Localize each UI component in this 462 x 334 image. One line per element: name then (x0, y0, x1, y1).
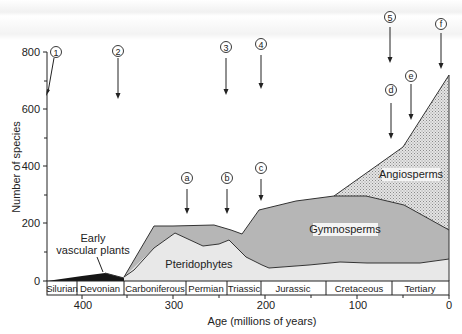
period-triassic: Triassic (228, 283, 261, 294)
y-axis-title: Number of species (10, 121, 22, 213)
x-axis-title: Age (millions of years) (208, 315, 317, 327)
marker-a: a (182, 173, 193, 215)
svg-text:a: a (184, 173, 189, 183)
svg-text:5: 5 (387, 13, 392, 23)
marker-e: e (406, 71, 417, 121)
period-permian: Permian (188, 283, 223, 294)
x-tick-label: 100 (349, 299, 367, 311)
svg-text:1: 1 (53, 48, 58, 58)
x-tick-label: 400 (74, 299, 92, 311)
arrow-down-icon (116, 93, 121, 99)
early-label-leader (97, 257, 103, 272)
y-tick-label: 600 (22, 103, 40, 115)
period-silurian: Silurian (46, 283, 78, 294)
svg-text:2: 2 (115, 47, 120, 57)
period-tertiary: Tertiary (404, 283, 435, 294)
label-pteridophytes: Pteridophytes (165, 258, 233, 270)
arrow-down-icon (259, 83, 264, 89)
y-tick-label: 0 (34, 275, 40, 287)
arrow-down-icon (224, 89, 229, 95)
period-carboniferous: Carboniferous (125, 283, 185, 294)
x-tick-label: 200 (257, 299, 275, 311)
marker-c: c (256, 163, 267, 202)
svg-text:3: 3 (223, 43, 228, 53)
arrow-down-icon (389, 133, 394, 139)
label-gymnosperms: Gymnosperms (309, 223, 381, 235)
svg-text:d: d (388, 85, 393, 95)
svg-text:c: c (259, 163, 264, 173)
arrow-down-icon (388, 57, 393, 63)
x-tick-label: 300 (165, 299, 183, 311)
y-tick-label: 800 (22, 46, 40, 58)
arrow-down-icon (409, 114, 414, 120)
y-ticks (43, 52, 47, 281)
x-tick-label: 0 (446, 299, 452, 311)
label-angiosperms: Angiosperms (379, 168, 444, 180)
marker-3: 3 (221, 42, 232, 96)
y-tick-label: 400 (22, 160, 40, 172)
label-vascular-plants: vascular plants (56, 244, 130, 256)
svg-text:4: 4 (258, 40, 263, 50)
arrow-down-icon (225, 208, 230, 214)
y-tick-label: 200 (22, 217, 40, 229)
marker-5: 5 (385, 12, 396, 64)
marker-4: 4 (256, 39, 267, 90)
arrow-down-icon (185, 208, 190, 214)
svg-text:b: b (224, 173, 229, 183)
marker-2: 2 (113, 46, 124, 100)
species-diversity-chart: 0 200 400 600 800 Number of species Silu… (0, 0, 462, 334)
arrow-down-icon (259, 195, 264, 201)
period-jurassic: Jurassic (276, 283, 311, 294)
label-early: Early (80, 232, 106, 244)
marker-f: f (436, 19, 447, 70)
marker-b: b (222, 173, 233, 215)
svg-text:e: e (408, 71, 413, 81)
marker-1: 1 (46, 47, 62, 97)
early-vascular-plants-area (47, 273, 124, 281)
marker-d: d (386, 85, 397, 140)
period-devonian: Devonian (80, 283, 120, 294)
period-cretaceous: Cretaceous (335, 283, 384, 294)
arrow-down-icon (439, 63, 444, 69)
